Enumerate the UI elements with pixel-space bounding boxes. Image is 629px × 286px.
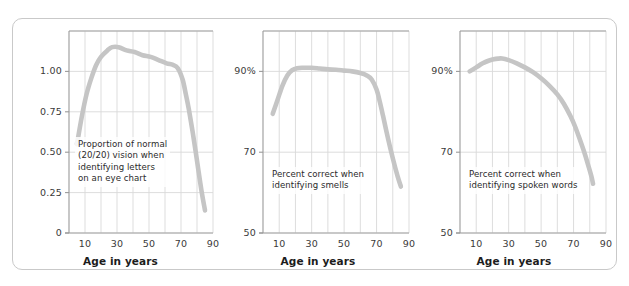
- figure-card: 00.250.500.751.001030507090Age in yearsP…: [12, 18, 617, 270]
- y-axis-tick-label: 50: [441, 228, 454, 238]
- x-axis-tick-label: 30: [105, 239, 129, 249]
- x-axis-title: Age in years: [23, 255, 218, 267]
- y-axis-tick-label: 50: [244, 228, 257, 238]
- plot-area-smell: 507090%1030507090Age in yearsPercent cor…: [223, 19, 413, 271]
- x-axis-tick-label: 70: [169, 239, 193, 249]
- x-axis-tick-label: 70: [365, 239, 389, 249]
- plot-area-vision: 00.250.500.751.001030507090Age in yearsP…: [23, 19, 218, 271]
- data-line-hearing: [470, 58, 593, 183]
- chart-panel-hearing: 507090%1030507090Age in yearsPercent cor…: [418, 19, 610, 271]
- x-axis-title: Age in years: [223, 255, 413, 267]
- chart-annotation-vision: Proportion of normal (20/20) vision when…: [75, 137, 170, 187]
- x-axis-tick-label: 10: [267, 239, 291, 249]
- chart-annotation-hearing: Percent correct when identifying spoken …: [466, 167, 580, 194]
- x-axis-tick-label: 70: [562, 239, 586, 249]
- x-axis-tick-label: 30: [497, 239, 521, 249]
- y-axis-tick-label: 70: [441, 147, 454, 157]
- x-axis-title: Age in years: [418, 255, 610, 267]
- x-axis-tick-label: 30: [300, 239, 324, 249]
- plot-area-hearing: 507090%1030507090Age in yearsPercent cor…: [418, 19, 610, 271]
- x-axis-tick-label: 90: [594, 239, 618, 249]
- chart-annotation-smell: Percent correct when identifying smells: [269, 167, 367, 194]
- x-axis-tick-label: 50: [137, 239, 161, 249]
- x-axis-tick-label: 50: [529, 239, 553, 249]
- chart-panel-smell: 507090%1030507090Age in yearsPercent cor…: [223, 19, 413, 271]
- y-axis-tick-label: 0.25: [40, 188, 62, 198]
- chart-panel-vision: 00.250.500.751.001030507090Age in yearsP…: [23, 19, 218, 271]
- x-axis-tick-label: 90: [201, 239, 225, 249]
- x-axis-tick-label: 50: [332, 239, 356, 249]
- y-axis-tick-label: 0.50: [40, 147, 62, 157]
- y-axis-tick-label: 70: [244, 147, 257, 157]
- y-axis-tick-label: 90%: [234, 66, 256, 76]
- y-axis-tick-label: 1.00: [40, 66, 62, 76]
- y-axis-tick-label: 90%: [431, 66, 453, 76]
- x-axis-tick-label: 10: [73, 239, 97, 249]
- y-axis-tick-label: 0: [56, 228, 62, 238]
- y-axis-tick-label: 0.75: [40, 107, 62, 117]
- x-axis-tick-label: 10: [464, 239, 488, 249]
